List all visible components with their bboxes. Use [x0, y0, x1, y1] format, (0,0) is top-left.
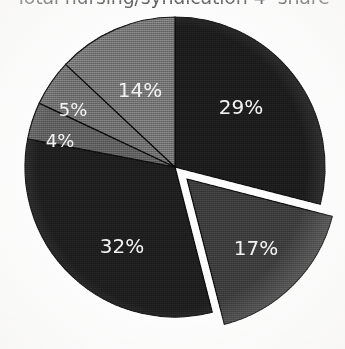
pie-slice-label-17: 17%: [234, 236, 278, 260]
chart-title-text: Total nursing/syndication 4- share: [16, 0, 330, 8]
pie-slice-label-29: 29%: [219, 95, 263, 119]
pie-slice-group: [25, 17, 332, 324]
pie-slice-label-5: 5%: [59, 99, 88, 120]
pie-slice-label-14: 14%: [118, 78, 162, 102]
pie-chart-svg: 29%17%32%4%5%14%: [0, 9, 345, 349]
pie-slice-label-32: 32%: [100, 234, 144, 258]
pie-slice-label-4: 4%: [46, 130, 75, 151]
chart-title: Total nursing/syndication 4- share: [0, 0, 345, 9]
pie-chart-figure: 29%17%32%4%5%14%: [0, 9, 345, 349]
